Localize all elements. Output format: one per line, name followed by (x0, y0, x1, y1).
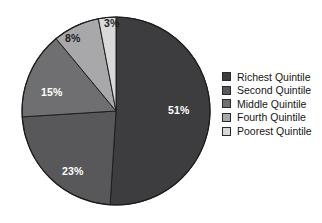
legend-swatch-icon (222, 113, 231, 122)
legend-item-label: Richest Quintile (237, 72, 311, 83)
legend-item-poorest-quintile[interactable]: Poorest Quintile (222, 124, 322, 138)
legend-item-second-quintile[interactable]: Second Quintile (222, 84, 322, 98)
slice-label-second-quintile: 23% (62, 166, 84, 177)
legend-item-fourth-quintile[interactable]: Fourth Quintile (222, 111, 322, 125)
legend-swatch-icon (222, 86, 231, 95)
slice-label-middle-quintile: 15% (41, 87, 63, 98)
legend-item-label: Second Quintile (237, 85, 311, 96)
pie-chart-area: 51% 23% 15% 8% 3% (0, 0, 220, 223)
legend-item-label: Middle Quintile (237, 99, 306, 110)
legend-item-label: Poorest Quintile (237, 126, 312, 137)
legend-item-richest-quintile[interactable]: Richest Quintile (222, 70, 322, 84)
legend-swatch-icon (222, 127, 231, 136)
slice-label-poorest-quintile: 3% (104, 18, 120, 29)
pie-slice[interactable] (110, 17, 210, 205)
legend-swatch-icon (222, 99, 231, 108)
pie-chart-page: 51% 23% 15% 8% 3% Richest Quintile Secon… (0, 0, 322, 223)
legend-item-middle-quintile[interactable]: Middle Quintile (222, 97, 322, 111)
slice-label-fourth-quintile: 8% (65, 33, 81, 44)
chart-legend: Richest Quintile Second Quintile Middle … (222, 70, 322, 138)
legend-item-label: Fourth Quintile (237, 112, 306, 123)
pie-slice[interactable] (22, 111, 116, 205)
legend-swatch-icon (222, 72, 231, 81)
slice-label-richest-quintile: 51% (168, 105, 190, 116)
